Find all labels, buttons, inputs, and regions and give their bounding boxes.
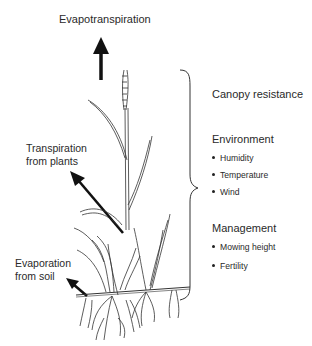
bullet-icon <box>212 156 215 159</box>
transpiration-arrow <box>70 171 123 233</box>
management-heading: Management <box>212 222 276 235</box>
grass-plant <box>74 70 190 340</box>
transpiration-label-line2: from plants <box>26 155 78 168</box>
bullet-icon <box>212 245 215 248</box>
management-item-fertility: Fertility <box>212 261 248 272</box>
factor-brace <box>180 70 198 300</box>
evaporation-label-line1: Evaporation <box>15 257 71 270</box>
evaporation-arrow <box>66 278 87 296</box>
environment-item-wind: Wind <box>212 187 240 198</box>
canopy-resistance-label: Canopy resistance <box>212 88 303 101</box>
management-item-mowing-height: Mowing height <box>212 242 275 253</box>
environment-heading: Environment <box>212 133 274 146</box>
bullet-icon <box>212 190 215 193</box>
environment-item-temperature: Temperature <box>212 170 268 181</box>
environment-item-humidity: Humidity <box>212 153 253 164</box>
evapotranspiration-arrow <box>93 37 109 80</box>
evapotranspiration-label: Evapotranspiration <box>59 13 151 26</box>
transpiration-label-line1: Transpiration <box>26 142 87 155</box>
evaporation-label-line2: from soil <box>15 270 55 283</box>
bullet-icon <box>212 173 215 176</box>
bullet-icon <box>212 264 215 267</box>
